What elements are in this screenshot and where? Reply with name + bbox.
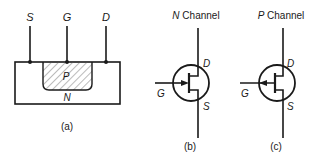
p-channel-title: P Channel — [258, 10, 305, 21]
panel-a-caption: (a) — [61, 121, 73, 132]
n-channel-drain-connection — [189, 28, 198, 76]
p-channel-source-label: S — [287, 101, 294, 112]
n-channel-title: N Channel — [172, 10, 219, 21]
drain-label: D — [102, 11, 110, 23]
p-region-label: P — [63, 71, 70, 82]
drain-contact-dot — [104, 60, 108, 64]
panel-c-caption: (c) — [270, 141, 282, 152]
p-channel-title-rest: Channel — [264, 10, 304, 21]
n-substrate-label: N — [63, 92, 71, 103]
n-channel-gate-label: G — [157, 88, 165, 99]
p-channel-gate-label: G — [241, 88, 249, 99]
source-label: S — [26, 11, 34, 23]
n-channel-gate-arrow-icon — [181, 80, 189, 86]
panel-b-caption: (b) — [184, 141, 196, 152]
panel-b-n-channel-symbol: N Channel D G S (b) — [155, 10, 220, 152]
n-channel-drain-label: D — [203, 58, 210, 69]
n-channel-title-rest: Channel — [180, 10, 220, 21]
source-contact-dot — [28, 60, 32, 64]
panel-c-p-channel-symbol: P Channel D G S (c) — [240, 10, 304, 152]
p-channel-source-connection — [275, 90, 283, 138]
p-channel-gate-arrow-icon — [259, 80, 267, 86]
p-channel-drain-connection — [275, 28, 283, 76]
jfet-diagram: S G D P N (a) N Channel D G S (b) P Chan… — [0, 0, 318, 162]
gate-contact-dot — [65, 60, 69, 64]
n-channel-source-label: S — [203, 101, 210, 112]
gate-label: G — [63, 11, 72, 23]
p-channel-drain-label: D — [287, 58, 294, 69]
n-channel-source-connection — [189, 90, 198, 138]
panel-a-cross-section: S G D P N (a) — [15, 11, 120, 132]
